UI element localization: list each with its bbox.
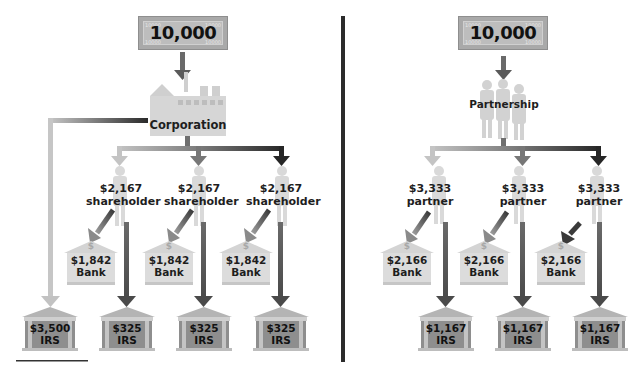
irs-shareholder-3: $325IRS	[253, 307, 309, 351]
bank-amount: $2,166	[380, 254, 434, 266]
arrow-partner-3-to-irs	[590, 222, 609, 307]
shareholder-3: $2,167 shareholder	[246, 182, 316, 208]
irs-label: IRS	[99, 334, 155, 346]
partnership-income-amount: 10,000	[459, 22, 547, 43]
irs-amount: $1,167	[572, 322, 628, 334]
bank-partner-1: $ $2,166Bank	[380, 241, 434, 285]
irs-partner-3: $1,167IRS	[572, 307, 628, 351]
arrow-shareholder-2-to-bank	[167, 210, 192, 243]
irs-label: IRS	[22, 334, 78, 346]
bank-label: Bank	[457, 266, 511, 278]
irs-label: IRS	[495, 334, 551, 346]
irs-label: IRS	[253, 334, 309, 346]
irs-corporate-tax: $3,500IRS	[22, 307, 78, 351]
irs-label: IRS	[572, 334, 628, 346]
arrow-income-to-corporation	[174, 52, 191, 80]
bank-amount: $1,842	[64, 254, 118, 266]
irs-shareholder-2: $325IRS	[176, 307, 232, 351]
section-divider	[341, 16, 345, 362]
arrow-partner-2-to-bank	[483, 212, 507, 244]
arrow-shareholder-2-to-irs	[194, 222, 213, 307]
partner-amount: $3,333	[569, 182, 629, 195]
bank-label: Bank	[380, 266, 434, 278]
irs-amount: $325	[176, 322, 232, 334]
irs-label: IRS	[418, 334, 474, 346]
bank-label: Bank	[142, 266, 196, 278]
dollar-icon: $	[142, 241, 196, 251]
corporation-income-amount: 10,000	[139, 22, 227, 43]
arrow-shareholder-3-to-irs	[271, 222, 290, 307]
partner-2: $3,333 partner	[493, 182, 553, 208]
shareholder-role: shareholder	[86, 195, 156, 208]
footnote-rule	[16, 360, 88, 362]
partnership-income-bill: 10000 10000 10000 10000 10,000	[458, 16, 548, 50]
bank-shareholder-2: $ $1,842Bank	[142, 241, 196, 285]
shareholder-amount: $2,167	[86, 182, 156, 195]
partner-1: $3,333 partner	[400, 182, 460, 208]
partnership-branch-line	[430, 146, 600, 151]
arrow-income-to-partnership	[495, 56, 512, 80]
bank-label: Bank	[534, 266, 588, 278]
bank-amount: $1,842	[219, 254, 273, 266]
corporation-label: Corporation	[148, 119, 228, 132]
partner-role: partner	[493, 195, 553, 208]
arrow-partner-1-to-irs	[436, 222, 455, 307]
irs-amount: $325	[99, 322, 155, 334]
bank-shareholder-3: $ $1,842Bank	[219, 241, 273, 285]
arrow-shareholder-3-to-bank	[244, 210, 269, 243]
arrow-shareholder-1-to-bank	[88, 210, 113, 243]
partner-3: $3,333 partner	[569, 182, 629, 208]
bank-amount: $1,842	[142, 254, 196, 266]
irs-amount: $1,167	[418, 322, 474, 334]
shareholder-amount: $2,167	[246, 182, 316, 195]
irs-amount: $325	[253, 322, 309, 334]
dollar-icon: $	[534, 241, 588, 251]
bank-label: Bank	[219, 266, 273, 278]
irs-shareholder-1: $325IRS	[99, 307, 155, 351]
corporation-income-bill: 10000 10000 10000 10000 10,000	[138, 16, 228, 50]
shareholder-role: shareholder	[164, 195, 234, 208]
arrow-shareholder-1-to-irs	[117, 222, 136, 307]
irs-amount: $1,167	[495, 322, 551, 334]
partner-role: partner	[569, 195, 629, 208]
arrow-partner-1-to-bank	[405, 212, 429, 244]
irs-amount: $3,500	[22, 322, 78, 334]
shareholder-amount: $2,167	[164, 182, 234, 195]
bank-partner-2: $ $2,166Bank	[457, 241, 511, 285]
irs-partner-1: $1,167IRS	[418, 307, 474, 351]
arrow-partner-2-to-irs	[513, 222, 532, 307]
irs-label: IRS	[176, 334, 232, 346]
shareholder-role: shareholder	[246, 195, 316, 208]
shareholder-1: $2,167 shareholder	[86, 182, 156, 208]
dollar-icon: $	[219, 241, 273, 251]
bank-amount: $2,166	[457, 254, 511, 266]
bank-amount: $2,166	[534, 254, 588, 266]
dollar-icon: $	[64, 241, 118, 251]
partner-role: partner	[400, 195, 460, 208]
bank-label: Bank	[64, 266, 118, 278]
bank-shareholder-1: $ $1,842Bank	[64, 241, 118, 285]
partnership-label: Partnership	[466, 98, 542, 111]
shareholder-2: $2,167 shareholder	[164, 182, 234, 208]
dollar-icon: $	[380, 241, 434, 251]
partner-amount: $3,333	[493, 182, 553, 195]
bank-partner-3: $ $2,166Bank	[534, 241, 588, 285]
partner-amount: $3,333	[400, 182, 460, 195]
dollar-icon: $	[457, 241, 511, 251]
irs-partner-2: $1,167IRS	[495, 307, 551, 351]
